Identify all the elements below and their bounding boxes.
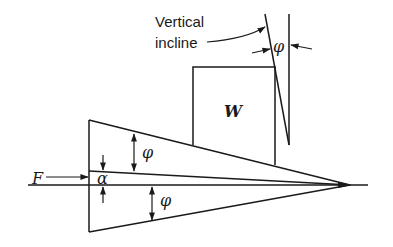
incline-leader-arrow [207,27,265,42]
phi-bottom-dimension: φ [152,187,172,220]
alpha-label: α [97,169,108,188]
incline-label: Vertical incline [155,13,265,51]
phi-incline-label: φ [273,37,285,56]
weight-label: W [224,102,244,121]
wedge [89,120,352,232]
incline-label-line2: incline [155,34,198,51]
wedge-inner-line [89,171,350,185]
phi-bottom-label: φ [160,191,172,210]
alpha-dimension: α [97,155,108,203]
vertical-incline: φ [252,14,312,145]
block-w: W [193,67,275,165]
phi-top-label: φ [142,143,154,162]
wedge-tip [338,182,352,188]
phi-incline-arrow-right [291,45,312,49]
phi-incline-arrow-left [252,49,270,53]
wedge-upper-face [89,120,350,185]
wedge-diagram: W φ Vertical incline φ φ α F [0,0,393,247]
incline-label-line1: Vertical [155,13,204,30]
wedge-lower-face [89,185,350,232]
force-label: F [31,169,44,188]
phi-top-dimension: φ [134,134,154,171]
incline-line [265,14,289,145]
